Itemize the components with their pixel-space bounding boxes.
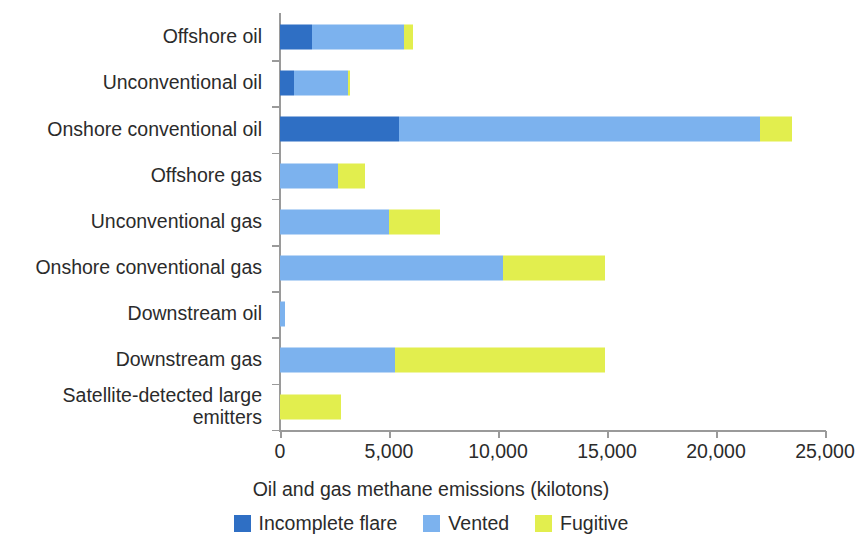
y-axis-tick-7 xyxy=(272,337,280,339)
y-axis-label-onshore-conventional-oil: Onshore conventional oil xyxy=(0,106,272,152)
x-axis-tick-20000 xyxy=(716,431,718,438)
bar-segment-incomplete-flare-onshore-conventional-oil[interactable] xyxy=(280,117,399,142)
bar-row-offshore-gas xyxy=(280,153,825,199)
y-axis-label-downstream-gas: Downstream gas xyxy=(0,337,272,383)
bar-segment-vented-onshore-conventional-oil[interactable] xyxy=(399,117,760,142)
stacked-bar-satellite-detected-large-emitters[interactable] xyxy=(280,394,341,419)
x-axis-tick-label-25000: 25,000 xyxy=(795,440,855,463)
bar-segment-fugitive-unconventional-gas[interactable] xyxy=(389,209,440,234)
x-axis-title: Oil and gas methane emissions (kilotons) xyxy=(0,478,862,501)
legend-label-vented: Vented xyxy=(448,512,509,535)
stacked-bar-downstream-gas[interactable] xyxy=(280,348,605,373)
x-axis-tick-label-5000: 5,000 xyxy=(365,440,414,463)
bar-segment-vented-downstream-gas[interactable] xyxy=(280,348,395,373)
y-axis-category-labels: Offshore oil Unconventional oil Onshore … xyxy=(0,14,272,430)
y-axis-tick-6 xyxy=(272,291,280,293)
bar-segment-fugitive-downstream-gas[interactable] xyxy=(395,348,605,373)
bar-segment-vented-offshore-gas[interactable] xyxy=(280,163,338,188)
y-axis-tick-3 xyxy=(272,153,280,155)
bar-row-unconventional-gas xyxy=(280,199,825,245)
bar-segment-vented-unconventional-oil[interactable] xyxy=(294,71,348,96)
x-axis-tick-0 xyxy=(280,431,282,438)
legend-swatch-vented xyxy=(423,515,440,532)
bar-segment-vented-offshore-oil[interactable] xyxy=(312,25,405,50)
legend-item-incomplete-flare[interactable]: Incomplete flare xyxy=(234,512,398,535)
y-axis-tick-4 xyxy=(272,199,280,201)
y-axis-tick-9 xyxy=(272,430,280,432)
x-axis-tick-10000 xyxy=(498,431,500,438)
bar-segment-incomplete-flare-offshore-oil[interactable] xyxy=(280,25,312,50)
legend-swatch-fugitive xyxy=(535,515,552,532)
y-axis-label-unconventional-gas: Unconventional gas xyxy=(0,199,272,245)
stacked-bar-downstream-oil[interactable] xyxy=(280,302,285,327)
chart-legend: Incomplete flareVentedFugitive xyxy=(0,512,862,535)
legend-label-incomplete-flare: Incomplete flare xyxy=(259,512,398,535)
x-axis-tick-15000 xyxy=(607,431,609,438)
y-axis-tick-8 xyxy=(272,384,280,386)
bar-segment-vented-unconventional-gas[interactable] xyxy=(280,209,389,234)
y-axis-label-unconventional-oil: Unconventional oil xyxy=(0,60,272,106)
y-axis-tick-5 xyxy=(272,245,280,247)
legend-swatch-incomplete-flare xyxy=(234,515,251,532)
bar-segment-fugitive-offshore-gas[interactable] xyxy=(338,163,365,188)
y-axis-label-onshore-conventional-gas: Onshore conventional gas xyxy=(0,245,272,291)
bar-row-downstream-gas xyxy=(280,337,825,383)
y-axis-label-offshore-oil: Offshore oil xyxy=(0,14,272,60)
legend-item-fugitive[interactable]: Fugitive xyxy=(535,512,628,535)
x-axis-tick-25000 xyxy=(825,431,827,438)
y-axis-label-offshore-gas: Offshore gas xyxy=(0,153,272,199)
bar-row-downstream-oil xyxy=(280,291,825,337)
bar-row-onshore-conventional-gas xyxy=(280,245,825,291)
y-axis-tick-1 xyxy=(272,60,280,62)
bar-segment-fugitive-offshore-oil[interactable] xyxy=(404,25,412,50)
x-axis-tick-5000 xyxy=(389,431,391,438)
bar-segment-fugitive-onshore-conventional-oil[interactable] xyxy=(760,117,793,142)
x-axis-tick-label-15000: 15,000 xyxy=(577,440,637,463)
bar-segment-vented-onshore-conventional-gas[interactable] xyxy=(280,256,503,281)
bar-chart: Offshore oil Unconventional oil Onshore … xyxy=(0,0,862,549)
bar-segment-vented-downstream-oil[interactable] xyxy=(280,302,285,327)
bar-row-onshore-conventional-oil xyxy=(280,106,825,152)
legend-item-vented[interactable]: Vented xyxy=(423,512,509,535)
x-axis-line xyxy=(279,430,826,432)
y-axis-label-downstream-oil: Downstream oil xyxy=(0,291,272,337)
legend-label-fugitive: Fugitive xyxy=(560,512,628,535)
bar-row-satellite-detected-large-emitters xyxy=(280,384,825,430)
stacked-bar-offshore-gas[interactable] xyxy=(280,163,365,188)
bar-segment-fugitive-unconventional-oil[interactable] xyxy=(348,71,351,96)
stacked-bar-onshore-conventional-oil[interactable] xyxy=(280,117,792,142)
stacked-bar-unconventional-oil[interactable] xyxy=(280,71,350,96)
plot-area xyxy=(280,14,825,430)
bar-segment-fugitive-onshore-conventional-gas[interactable] xyxy=(503,256,605,281)
stacked-bar-onshore-conventional-gas[interactable] xyxy=(280,256,605,281)
bar-row-offshore-oil xyxy=(280,14,825,60)
x-axis-tick-label-10000: 10,000 xyxy=(468,440,528,463)
bar-row-unconventional-oil xyxy=(280,60,825,106)
y-axis-tick-2 xyxy=(272,106,280,108)
stacked-bar-unconventional-gas[interactable] xyxy=(280,209,440,234)
y-axis-label-satellite-detected-large-emitters: Satellite-detected large emitters xyxy=(0,384,272,430)
bar-segment-fugitive-satellite-detected-large-emitters[interactable] xyxy=(280,394,341,419)
bar-segment-incomplete-flare-unconventional-oil[interactable] xyxy=(280,71,294,96)
stacked-bar-offshore-oil[interactable] xyxy=(280,25,413,50)
x-axis-tick-label-20000: 20,000 xyxy=(686,440,746,463)
x-axis-tick-label-0: 0 xyxy=(275,440,286,463)
